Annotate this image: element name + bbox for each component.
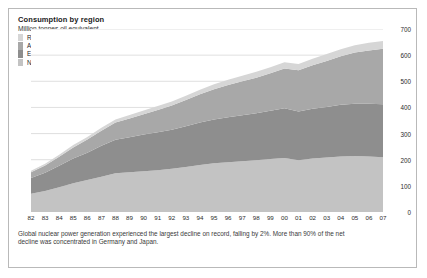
x-axis-tick-label: 88 bbox=[112, 214, 119, 221]
x-axis-tick-label: 03 bbox=[323, 214, 330, 221]
area-chart-svg bbox=[31, 29, 383, 212]
y-axis-tick-label: 0 bbox=[407, 209, 411, 216]
x-axis-tick-label: 05 bbox=[351, 214, 358, 221]
x-axis-tick-label: 96 bbox=[225, 214, 232, 221]
x-axis-tick-label: 87 bbox=[98, 214, 105, 221]
y-axis-tick-label: 400 bbox=[400, 104, 411, 111]
x-axis-tick-label: 07 bbox=[380, 214, 387, 221]
y-axis-tick-label: 200 bbox=[400, 156, 411, 163]
x-axis-tick-label: 83 bbox=[42, 214, 49, 221]
x-axis-tick-label: 92 bbox=[168, 214, 175, 221]
x-axis-tick-label: 94 bbox=[197, 214, 204, 221]
y-axis: 7006005004003002001000 bbox=[385, 29, 413, 212]
x-axis: 8283848586878889909192939495969798990001… bbox=[31, 214, 383, 224]
x-axis-tick-label: 84 bbox=[56, 214, 63, 221]
y-axis-tick-label: 100 bbox=[400, 182, 411, 189]
x-axis-tick-label: 93 bbox=[182, 214, 189, 221]
x-axis-tick-label: 99 bbox=[267, 214, 274, 221]
chart-caption: Global nuclear power generation experien… bbox=[18, 230, 410, 247]
y-axis-tick-label: 300 bbox=[400, 130, 411, 137]
x-axis-tick-label: 90 bbox=[140, 214, 147, 221]
x-axis-tick-label: 86 bbox=[84, 214, 91, 221]
x-axis-tick-label: 04 bbox=[337, 214, 344, 221]
x-axis-tick-label: 98 bbox=[253, 214, 260, 221]
caption-line-2: decline was concentrated in Germany and … bbox=[18, 238, 410, 246]
page-title: Consumption by region bbox=[18, 15, 104, 24]
legend-swatch-icon bbox=[18, 34, 23, 41]
legend-swatch-icon bbox=[18, 42, 23, 49]
x-axis-tick-label: 95 bbox=[211, 214, 218, 221]
legend-swatch-icon bbox=[18, 50, 23, 57]
legend-swatch-icon bbox=[18, 59, 23, 66]
y-axis-tick-label: 500 bbox=[400, 78, 411, 85]
x-axis-tick-label: 85 bbox=[70, 214, 77, 221]
x-axis-tick-label: 00 bbox=[281, 214, 288, 221]
y-axis-tick-label: 600 bbox=[400, 52, 411, 59]
x-axis-tick-label: 89 bbox=[126, 214, 133, 221]
x-axis-tick-label: 06 bbox=[365, 214, 372, 221]
y-axis-tick-label: 700 bbox=[400, 26, 411, 33]
caption-line-1: Global nuclear power generation experien… bbox=[18, 230, 410, 238]
x-axis-tick-label: 91 bbox=[154, 214, 161, 221]
x-axis-tick-label: 82 bbox=[28, 214, 35, 221]
plot-area bbox=[31, 29, 383, 212]
x-axis-tick-label: 97 bbox=[239, 214, 246, 221]
x-axis-tick-label: 02 bbox=[309, 214, 316, 221]
chart-figure: Consumption by region Million tonnes oil… bbox=[8, 8, 417, 268]
x-axis-tick-label: 01 bbox=[295, 214, 302, 221]
